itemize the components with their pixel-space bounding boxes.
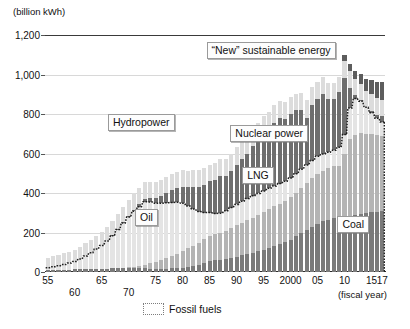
bar-segment — [267, 248, 271, 272]
bar-segment — [78, 259, 82, 269]
bar-segment — [310, 178, 314, 227]
bar-segment — [202, 213, 206, 240]
bar-segment — [240, 201, 244, 222]
bar-segment — [332, 83, 336, 99]
bar-column — [175, 172, 179, 273]
bar-segment — [380, 211, 384, 272]
bar-segment — [202, 263, 206, 272]
bar-segment — [218, 159, 222, 176]
bar-segment — [240, 255, 244, 272]
bar-column — [132, 193, 136, 272]
y-tick-mark-400 — [41, 193, 45, 194]
legend-label-fossil-fuels: Fossil fuels — [169, 303, 222, 315]
callout-coal: Coal — [337, 216, 369, 233]
y-tick-mark-200 — [41, 233, 45, 234]
y-axis-unit-label: (billion kWh) — [13, 6, 65, 17]
bar-segment — [186, 171, 190, 187]
bar-column — [315, 82, 319, 272]
bar-segment — [353, 99, 357, 135]
y-tick-label-800: 800 — [0, 109, 40, 120]
bar-segment — [380, 122, 384, 136]
bar-segment — [289, 197, 293, 239]
bar-segment — [369, 80, 373, 94]
stacked-bars — [45, 35, 385, 272]
bar-segment — [262, 191, 266, 212]
bar-segment — [240, 141, 244, 159]
bar-segment — [380, 82, 384, 100]
bar-segment — [191, 187, 195, 209]
bar-column — [100, 232, 104, 272]
bar-column — [121, 207, 125, 272]
bar-segment — [342, 135, 346, 155]
bar-segment — [143, 182, 147, 198]
bar-segment — [342, 154, 346, 217]
x-tick-label-95: 95 — [258, 275, 269, 286]
x-tick-label-15: 15 — [366, 275, 377, 286]
bar-segment — [310, 227, 314, 272]
bar-segment — [105, 241, 109, 269]
bar-segment — [197, 170, 201, 187]
bar-segment — [208, 165, 212, 182]
bar-segment — [186, 206, 190, 248]
bar-segment — [245, 199, 249, 221]
bar-column — [56, 255, 60, 272]
bar-segment — [321, 94, 325, 154]
bar-segment — [348, 71, 352, 88]
bar-segment — [332, 150, 336, 165]
bar-column — [105, 227, 109, 272]
bar-column — [289, 97, 293, 272]
bar-segment — [305, 100, 309, 118]
bar-segment — [229, 171, 233, 207]
bar-segment — [326, 152, 330, 168]
bar-segment — [197, 187, 201, 211]
bar-segment — [272, 105, 276, 122]
bar-segment — [110, 221, 114, 236]
bar-segment — [170, 190, 174, 202]
bar-segment — [170, 256, 174, 268]
bar-segment — [289, 240, 293, 272]
bar-segment — [208, 261, 212, 272]
bar-column — [191, 170, 195, 272]
bar-column — [353, 71, 357, 272]
bar-column — [240, 141, 244, 272]
bar-segment — [245, 254, 249, 272]
bar-segment — [315, 174, 319, 224]
bar-segment — [159, 203, 163, 260]
bar-segment — [89, 240, 93, 253]
bar-column — [116, 214, 120, 272]
x-tick-label-2000: 2000 — [279, 275, 301, 286]
bar-column — [197, 170, 201, 272]
bar-column — [51, 256, 55, 272]
bar-segment — [202, 239, 206, 263]
bar-segment — [186, 248, 190, 267]
bar-segment — [256, 215, 260, 251]
bar-column — [67, 252, 71, 272]
plot-area — [45, 35, 385, 272]
bar-column — [137, 188, 141, 272]
bar-segment — [73, 262, 77, 270]
x-tick-label-80: 80 — [177, 275, 188, 286]
bar-column — [245, 136, 249, 272]
bar-column — [159, 180, 163, 272]
bar-column — [46, 258, 50, 272]
bar-segment — [46, 258, 50, 268]
bar-column — [62, 253, 66, 272]
bar-segment — [369, 94, 373, 111]
bar-segment — [310, 87, 314, 105]
bar-column — [83, 243, 87, 272]
bar-segment — [94, 236, 98, 249]
x-tick-label-90: 90 — [231, 275, 242, 286]
callout-oil: Oil — [135, 209, 158, 226]
bar-segment — [299, 188, 303, 233]
x-tick-label-75: 75 — [150, 275, 161, 286]
bar-segment — [267, 188, 271, 209]
bar-segment — [299, 169, 303, 188]
bar-segment — [337, 92, 341, 147]
bar-segment — [326, 99, 330, 152]
bar-segment — [256, 251, 260, 272]
y-tick-mark-1200 — [41, 35, 45, 36]
bar-segment — [83, 256, 87, 269]
bar-segment — [294, 94, 298, 111]
y-tick-mark-1000 — [41, 75, 45, 76]
callout-new-sustainable-energy: “New” sustainable energy — [207, 42, 336, 59]
